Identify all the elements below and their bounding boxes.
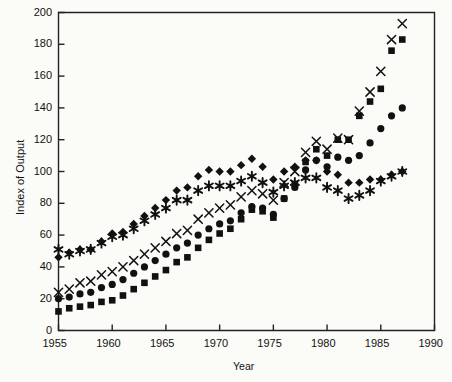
scatter-chart-figure: 1955196019651970197519801985199002040608… <box>0 0 452 382</box>
y-tick-label: 20 <box>0 292 52 304</box>
x-tick-label: 1955 <box>43 337 67 349</box>
y-tick-label: 60 <box>0 228 52 240</box>
y-axis-title: Index of Output <box>14 140 26 215</box>
x-tick-label: 1970 <box>204 337 228 349</box>
y-tick-label: 160 <box>0 69 52 81</box>
y-tick-label: 40 <box>0 260 52 272</box>
y-tick-label: 100 <box>0 165 52 177</box>
y-tick-label: 80 <box>0 196 52 208</box>
y-tick-label: 200 <box>0 6 52 18</box>
series-x-mark <box>54 20 406 297</box>
x-tick-label: 1980 <box>311 337 335 349</box>
y-tick-label: 140 <box>0 101 52 113</box>
x-tick-label: 1990 <box>419 337 443 349</box>
y-tick-label: 180 <box>0 37 52 49</box>
y-tick-label: 120 <box>0 133 52 145</box>
x-tick-label: 1975 <box>257 337 281 349</box>
plot-canvas <box>0 0 452 382</box>
x-axis-title: Year <box>233 360 254 372</box>
series-asterisk <box>55 167 407 259</box>
y-tick-label: 0 <box>0 324 52 336</box>
series-circle <box>55 104 406 302</box>
x-tick-label: 1960 <box>96 337 120 349</box>
x-tick-label: 1985 <box>365 337 389 349</box>
x-tick-label: 1965 <box>150 337 174 349</box>
series-diamond <box>54 155 406 262</box>
data-points-layer <box>54 20 406 315</box>
